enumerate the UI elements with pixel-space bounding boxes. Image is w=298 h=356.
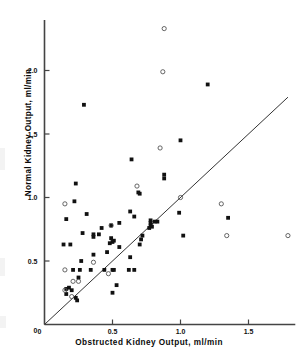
data-point-filled [117,245,121,249]
data-point-open [106,272,110,276]
data-point-filled [92,235,96,239]
data-point-filled [89,268,93,272]
data-point-filled [179,138,183,142]
data-point-filled [112,268,116,272]
data-point-filled [139,238,143,242]
data-point-filled [181,234,185,238]
data-point-filled [226,216,230,220]
data-point-filled [138,192,142,196]
x-axis-title: Obstructed Kidney Output, ml/min [0,338,298,347]
data-point-open [63,268,67,272]
scan-artifact [0,316,6,328]
data-point-filled [206,83,210,87]
scan-artifact [0,148,5,170]
data-point-filled [100,226,104,230]
data-point-filled [92,253,96,257]
data-point-filled [177,211,181,215]
data-point-filled [132,268,136,272]
data-point-filled [130,158,134,162]
data-point-filled [81,231,85,235]
data-point-filled [85,212,89,216]
data-point-open [225,234,229,238]
data-point-filled [132,215,136,219]
data-point-filled [162,177,166,181]
data-point-filled [74,182,78,186]
y-tick-label: 0.5 [28,258,38,265]
data-point-filled [68,243,72,247]
data-point-filled [75,298,79,302]
data-point-filled [82,103,86,107]
x-tick-label: 1.5 [244,328,254,335]
y-axis-title: Normal Kidney Output, ml/min [24,43,33,223]
data-point-filled [78,268,82,272]
data-point-open [158,146,162,150]
data-point-filled [97,232,101,236]
data-point-filled [108,241,112,245]
data-points-group [62,26,290,302]
data-point-open [70,294,74,298]
data-point-open [76,279,80,283]
data-point-open [135,184,139,188]
data-point-filled [102,268,106,272]
data-point-filled [150,225,154,229]
data-point-filled [71,268,75,272]
scan-artifact [0,258,5,276]
data-point-filled [105,250,109,254]
data-point-filled [70,288,74,292]
data-point-filled [62,243,66,247]
data-point-filled [128,255,132,259]
x-tick-label: 1.0 [176,328,186,335]
data-point-filled [73,199,77,203]
axis-ticks-group: 00.51.01.500.51.01.52.0 [28,67,254,334]
data-point-open [161,70,165,74]
data-point-open [219,202,223,206]
data-point-filled [141,234,145,238]
axes-group [45,20,296,324]
data-point-filled [115,283,119,287]
line-of-identity [45,97,288,324]
data-point-filled [153,220,157,224]
data-point-open [286,234,290,238]
data-point-open [71,279,75,283]
data-point-filled [127,268,131,272]
data-point-filled [128,210,132,214]
x-tick-label: 0 [38,328,42,335]
data-point-filled [79,259,83,263]
y-tick-label: 0 [34,327,38,334]
plot-canvas: 00.51.01.500.51.01.52.0 [0,0,298,356]
line-of-identity [45,97,288,324]
scatter-plot-figure: Normal Kidney Output, ml/min Obstructed … [0,0,298,356]
x-tick-label: 0.5 [108,328,118,335]
data-point-filled [162,173,166,177]
data-point-open [91,260,95,264]
data-point-filled [64,217,68,221]
data-point-open [63,202,67,206]
data-point-filled [111,291,115,295]
data-point-open [162,26,166,30]
data-point-filled [138,243,142,247]
data-point-filled [117,221,121,225]
